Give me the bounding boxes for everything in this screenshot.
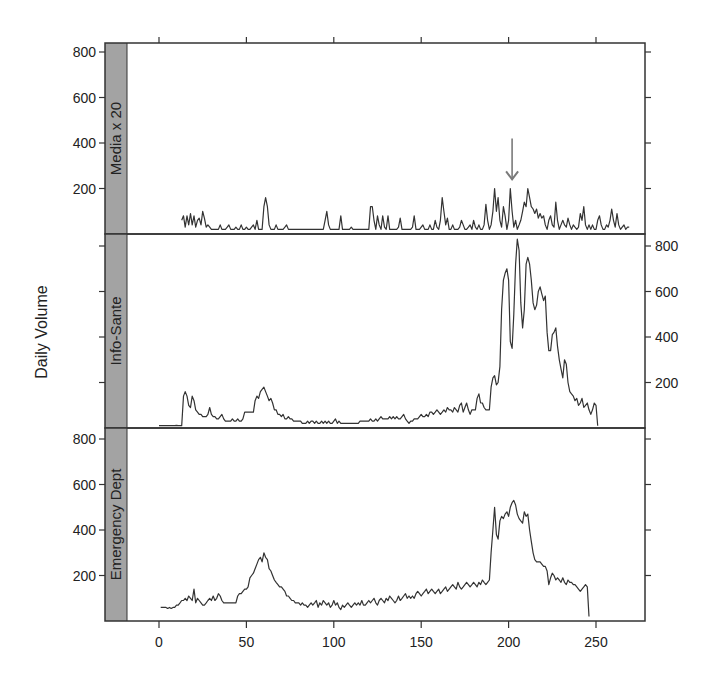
- panel-media-x-20: Media x 20200400600800: [73, 43, 651, 234]
- y-tick-label: 400: [73, 522, 97, 538]
- panel-frame: [105, 428, 645, 621]
- y-tick-label: 400: [73, 135, 97, 151]
- lattice-chart: Media x 20200400600800Info-Sante20040060…: [0, 0, 708, 678]
- y-tick-label: 200: [73, 181, 97, 197]
- x-tick-label: 250: [584, 634, 608, 650]
- panel-info-sante: Info-Sante200400600800: [99, 234, 679, 428]
- y-tick-label: 800: [73, 44, 97, 60]
- y-tick-label: 600: [73, 90, 97, 106]
- annotation-arrow-icon: [506, 138, 518, 179]
- y-tick-label: 400: [655, 329, 679, 345]
- panel-strip-label: Emergency Dept: [107, 468, 124, 581]
- y-tick-label: 600: [73, 477, 97, 493]
- series-line: [161, 500, 589, 616]
- y-tick-label: 800: [655, 238, 679, 254]
- series-line: [182, 189, 630, 230]
- y-tick-label: 800: [73, 431, 97, 447]
- panel-frame: [105, 43, 645, 234]
- y-tick-label: 600: [655, 284, 679, 300]
- x-tick-label: 200: [497, 634, 521, 650]
- y-tick-label: 200: [73, 568, 97, 584]
- x-tick-label: 50: [239, 634, 255, 650]
- series-line: [159, 239, 598, 426]
- x-tick-label: 150: [410, 634, 434, 650]
- panel-emergency-dept: Emergency Dept200400600800: [73, 428, 651, 621]
- panel-frame: [105, 234, 645, 428]
- panel-strip-label: Media x 20: [107, 102, 124, 175]
- x-tick-label: 100: [322, 634, 346, 650]
- y-axis-title: Daily Volume: [33, 285, 50, 378]
- panel-strip-label: Info-Sante: [107, 296, 124, 365]
- x-tick-label: 0: [155, 634, 163, 650]
- y-tick-label: 200: [655, 375, 679, 391]
